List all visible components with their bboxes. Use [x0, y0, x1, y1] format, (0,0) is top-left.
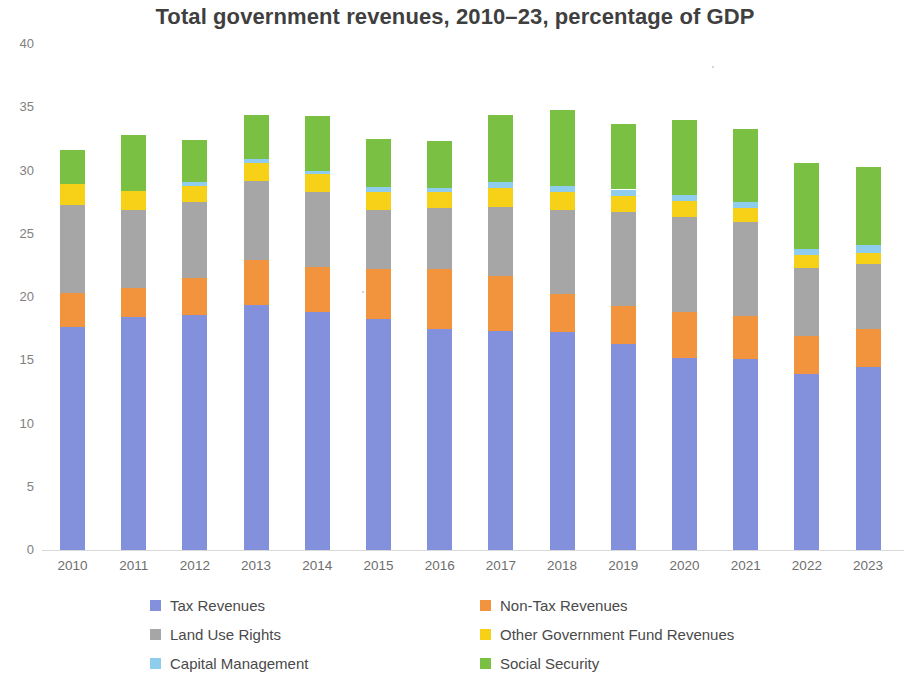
bar-segment[interactable] [427, 269, 452, 328]
stacked-bar[interactable] [733, 44, 758, 550]
bar-segment[interactable] [733, 202, 758, 208]
bar-segment[interactable] [244, 163, 269, 181]
bar-segment[interactable] [305, 171, 330, 175]
bar-segment[interactable] [550, 332, 575, 550]
bar-segment[interactable] [794, 374, 819, 550]
stacked-bar[interactable] [427, 44, 452, 550]
bar-segment[interactable] [794, 268, 819, 336]
bar-segment[interactable] [366, 187, 391, 192]
bar-segment[interactable] [488, 115, 513, 182]
bar-segment[interactable] [672, 217, 697, 312]
bar-segment[interactable] [611, 212, 636, 306]
bar-segment[interactable] [182, 140, 207, 182]
bar-segment[interactable] [121, 210, 146, 288]
bar-segment[interactable] [672, 358, 697, 550]
bar-segment[interactable] [794, 249, 819, 255]
stacked-bar[interactable] [856, 44, 881, 550]
bar-segment[interactable] [366, 269, 391, 318]
bar-segment[interactable] [550, 110, 575, 186]
stacked-bar[interactable] [60, 44, 85, 550]
bar-segment[interactable] [366, 210, 391, 269]
bar-segment[interactable] [244, 260, 269, 304]
bar-segment[interactable] [733, 316, 758, 359]
stacked-bar[interactable] [794, 44, 819, 550]
legend-item[interactable]: Capital Management [150, 650, 308, 676]
bar-segment[interactable] [182, 202, 207, 278]
bar-segment[interactable] [366, 319, 391, 550]
bar-segment[interactable] [244, 159, 269, 163]
bar-segment[interactable] [794, 336, 819, 374]
bar-segment[interactable] [611, 344, 636, 550]
bar-segment[interactable] [488, 182, 513, 188]
bar-segment[interactable] [244, 181, 269, 261]
bar-segment[interactable] [305, 192, 330, 267]
bar-segment[interactable] [550, 186, 575, 192]
bar-segment[interactable] [733, 359, 758, 550]
bar-segment[interactable] [733, 208, 758, 222]
stacked-bar[interactable] [550, 44, 575, 550]
bar-segment[interactable] [366, 139, 391, 187]
bar-segment[interactable] [672, 195, 697, 201]
stacked-bar[interactable] [366, 44, 391, 550]
bar-segment[interactable] [182, 182, 207, 186]
bar-segment[interactable] [488, 188, 513, 207]
bar-segment[interactable] [60, 327, 85, 550]
bar-segment[interactable] [550, 294, 575, 332]
bar-segment[interactable] [856, 253, 881, 264]
bar-segment[interactable] [60, 205, 85, 294]
bar-segment[interactable] [856, 264, 881, 329]
bar-segment[interactable] [611, 190, 636, 196]
bar-segment[interactable] [611, 306, 636, 344]
bar-segment[interactable] [794, 163, 819, 249]
bar-segment[interactable] [672, 201, 697, 217]
bar-segment[interactable] [244, 115, 269, 159]
bar-segment[interactable] [182, 315, 207, 550]
bar-segment[interactable] [182, 186, 207, 202]
bar-segment[interactable] [305, 267, 330, 313]
bar-segment[interactable] [672, 120, 697, 195]
bar-segment[interactable] [121, 191, 146, 210]
bar-segment[interactable] [733, 129, 758, 202]
bar-segment[interactable] [121, 288, 146, 317]
stacked-bar[interactable] [672, 44, 697, 550]
bar-segment[interactable] [611, 124, 636, 190]
bar-segment[interactable] [60, 150, 85, 184]
bar-segment[interactable] [856, 245, 881, 253]
bar-segment[interactable] [121, 317, 146, 550]
bar-segment[interactable] [427, 329, 452, 550]
stacked-bar[interactable] [121, 44, 146, 550]
bar-segment[interactable] [856, 367, 881, 550]
bar-segment[interactable] [672, 312, 697, 358]
bar-segment[interactable] [488, 331, 513, 550]
bar-segment[interactable] [305, 312, 330, 550]
bar-segment[interactable] [733, 222, 758, 316]
stacked-bar[interactable] [182, 44, 207, 550]
bar-segment[interactable] [427, 192, 452, 208]
legend-item[interactable]: Non-Tax Revenues [480, 592, 628, 618]
bar-segment[interactable] [856, 167, 881, 245]
bar-segment[interactable] [305, 174, 330, 192]
bar-segment[interactable] [60, 293, 85, 327]
stacked-bar[interactable] [305, 44, 330, 550]
bar-segment[interactable] [488, 207, 513, 275]
bar-segment[interactable] [305, 116, 330, 170]
bar-segment[interactable] [182, 278, 207, 315]
bar-segment[interactable] [427, 208, 452, 269]
bar-segment[interactable] [550, 210, 575, 295]
bar-segment[interactable] [550, 192, 575, 210]
stacked-bar[interactable] [244, 44, 269, 550]
bar-segment[interactable] [366, 192, 391, 210]
bar-segment[interactable] [794, 255, 819, 268]
bar-segment[interactable] [611, 196, 636, 212]
legend-item[interactable]: Tax Revenues [150, 592, 265, 618]
stacked-bar[interactable] [488, 44, 513, 550]
bar-segment[interactable] [60, 184, 85, 204]
bar-segment[interactable] [856, 329, 881, 367]
legend-item[interactable]: Land Use Rights [150, 621, 281, 647]
bar-segment[interactable] [488, 276, 513, 332]
legend-item[interactable]: Other Government Fund Revenues [480, 621, 734, 647]
bar-segment[interactable] [244, 305, 269, 550]
legend-item[interactable]: Social Security [480, 650, 599, 676]
bar-segment[interactable] [427, 188, 452, 192]
bar-segment[interactable] [121, 135, 146, 191]
